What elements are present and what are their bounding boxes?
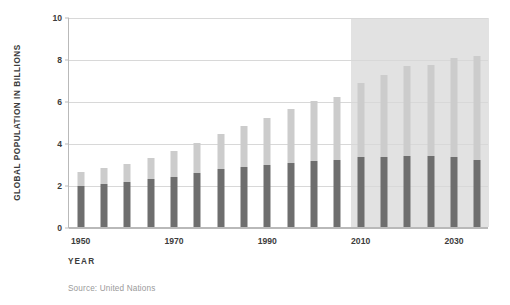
bar-segment-upper [147,158,154,179]
bar-segment-lower [217,169,224,227]
x-tick-label: 1990 [258,236,277,246]
bar-segment-lower [381,157,388,227]
bar-segment-lower [264,165,271,227]
bar-segment-lower [357,157,364,227]
bar-segment-upper [311,101,318,161]
bar-segment-lower [241,167,248,227]
bar-segment-upper [217,134,224,170]
bar-segment-lower [147,179,154,227]
y-tick-label: 2 [57,181,62,191]
bar-segment-lower [404,156,411,227]
y-tick-label: 4 [57,139,62,149]
x-axis-title: YEAR [68,257,95,266]
gridline [69,60,488,61]
bar-2015 [381,75,388,227]
bar-1990 [264,118,271,227]
x-tick-label: 1950 [71,236,90,246]
bar-1995 [287,109,294,227]
bar-segment-upper [381,75,388,157]
gridline [69,144,488,145]
y-axis-title: GLOBAL POPULATION IN BILLIONS [13,18,22,228]
x-tick-label: 1970 [164,236,183,246]
bar-1980 [217,134,224,227]
x-tick-label: 2010 [351,236,370,246]
bar-segment-lower [287,163,294,227]
bar-segment-lower [101,184,108,227]
y-tick-mark [65,18,69,19]
bar-segment-upper [357,83,364,157]
bar-segment-lower [334,160,341,227]
bar-2010 [357,83,364,227]
chart-figure: GLOBAL POPULATION IN BILLIONS 0246810195… [0,0,510,305]
projection-band [351,18,489,227]
x-tick-label: 2030 [444,236,463,246]
bar-segment-upper [474,56,481,160]
bar-2020 [404,66,411,227]
bar-1960 [124,164,131,227]
y-tick-label: 8 [57,55,62,65]
bar-segment-lower [311,161,318,227]
gridline [69,186,488,187]
bar-2030 [451,58,458,227]
bar-segment-upper [427,65,434,155]
bar-segment-lower [77,186,84,227]
y-tick-label: 6 [57,97,62,107]
bar-1970 [171,151,178,227]
bar-2035 [474,56,481,227]
y-tick-mark [65,60,69,61]
bar-segment-upper [194,143,201,173]
bar-segment-upper [171,151,178,176]
plot-area: 024681019501970199020102030 [68,18,488,228]
gridline [69,102,488,103]
bar-segment-upper [124,164,131,182]
bar-segment-lower [194,173,201,227]
bar-segment-lower [427,156,434,227]
bar-1950 [77,172,84,227]
bar-1965 [147,158,154,227]
y-tick-label: 10 [52,13,62,23]
bar-segment-lower [451,157,458,227]
bar-1975 [194,143,201,227]
y-tick-mark [65,102,69,103]
bar-segment-lower [171,177,178,227]
y-tick-label: 0 [57,223,62,233]
bar-segment-lower [474,160,481,227]
bar-segment-upper [101,168,108,184]
source-caption: Source: United Nations [68,284,156,293]
y-tick-mark [65,228,69,229]
bar-segment-upper [451,58,458,157]
bar-segment-upper [264,118,271,165]
bar-2000 [311,101,318,227]
bar-segment-upper [404,66,411,155]
bar-segment-lower [124,182,131,227]
bar-segment-upper [77,172,84,186]
gridline [69,228,488,229]
y-tick-mark [65,144,69,145]
bar-segment-upper [287,109,294,163]
bar-2025 [427,65,434,227]
bar-segment-upper [241,126,248,167]
bar-2005 [334,97,341,227]
bar-1955 [101,168,108,227]
y-tick-mark [65,186,69,187]
bar-1985 [241,126,248,227]
bar-segment-upper [334,97,341,160]
gridline [69,18,488,19]
